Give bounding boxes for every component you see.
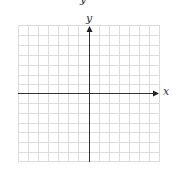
y-axis-arrow-icon <box>87 26 93 32</box>
axes <box>18 26 159 162</box>
coordinate-grid <box>0 0 176 170</box>
y-axis-label: y <box>86 13 92 24</box>
x-axis-label: x <box>163 86 169 97</box>
x-axis-arrow-icon <box>153 91 159 97</box>
